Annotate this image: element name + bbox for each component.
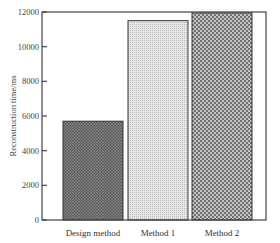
y-tick-label: 8000 — [22, 76, 39, 86]
y-tick-label: 10000 — [18, 42, 39, 52]
y-tick-label: 4000 — [22, 146, 39, 156]
y-tick-label: 12000 — [18, 7, 39, 17]
x-tick-label: Design method — [66, 228, 121, 238]
y-tick-label: 0 — [35, 215, 39, 225]
bar-chart: 020004000600080001000012000 Design metho… — [0, 0, 280, 243]
y-axis: 020004000600080001000012000 — [18, 7, 47, 225]
bar-method-1 — [128, 21, 188, 220]
plot-area — [42, 12, 266, 220]
y-tick-label: 2000 — [22, 180, 39, 190]
bar-method-2 — [192, 13, 252, 220]
bar-design-method — [63, 121, 123, 220]
x-tick-label: Method 2 — [205, 228, 240, 238]
x-axis-labels: Design methodMethod 1Method 2 — [66, 228, 240, 238]
y-tick-label: 6000 — [22, 111, 39, 121]
x-tick-label: Method 1 — [141, 228, 176, 238]
y-axis-title: Reconstruction time/ms — [8, 76, 18, 157]
